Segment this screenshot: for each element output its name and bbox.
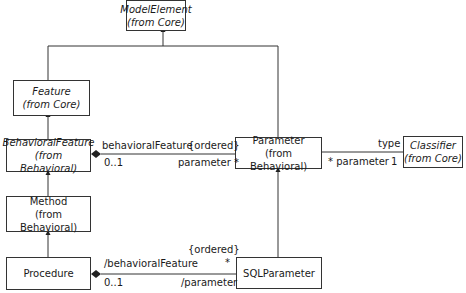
class-method[interactable]: Method (from Behavioral) bbox=[6, 196, 91, 232]
class-sql-parameter[interactable]: SQLParameter bbox=[236, 257, 322, 289]
class-classifier[interactable]: Classifier (from Core) bbox=[403, 136, 463, 168]
constraint-ordered: {ordered} bbox=[188, 244, 240, 255]
class-name: Parameter bbox=[252, 134, 304, 147]
class-package: (from Core) bbox=[23, 98, 81, 111]
class-name: Classifier bbox=[410, 139, 456, 152]
multiplicity-1: 1 bbox=[391, 156, 397, 167]
role-derived-parameter: /parameter bbox=[181, 277, 237, 288]
multiplicity-star: * bbox=[225, 257, 230, 268]
class-name: SQLParameter bbox=[243, 267, 315, 280]
class-behavioral-feature[interactable]: BehavioralFeature (from Behavioral) bbox=[6, 139, 91, 172]
class-model-element[interactable]: ModelElement (from Core) bbox=[126, 0, 186, 31]
role-parameter: parameter * bbox=[178, 157, 239, 168]
class-name: Feature bbox=[32, 85, 71, 98]
class-name: Procedure bbox=[23, 267, 73, 280]
role-behavioral-feature: behavioralFeature bbox=[102, 140, 193, 151]
class-name: ModelElement bbox=[120, 3, 191, 16]
class-name: BehavioralFeature bbox=[3, 136, 95, 149]
class-name: Method bbox=[30, 195, 68, 208]
constraint-ordered: {ordered} bbox=[188, 140, 240, 151]
class-feature[interactable]: Feature (from Core) bbox=[13, 80, 90, 116]
multiplicity-0-1: 0..1 bbox=[104, 157, 123, 168]
class-package: (from Behavioral) bbox=[236, 147, 321, 173]
composition-diamond-icon bbox=[91, 150, 101, 158]
role-derived-behavioral-feature: /behavioralFeature bbox=[104, 258, 198, 269]
class-package: (from Behavioral) bbox=[7, 149, 90, 175]
class-package: (from Core) bbox=[127, 16, 185, 29]
composition-diamond-icon bbox=[91, 270, 101, 278]
class-parameter[interactable]: Parameter (from Behavioral) bbox=[235, 137, 322, 169]
multiplicity-0-1: 0..1 bbox=[104, 277, 123, 288]
role-type: type bbox=[378, 138, 400, 149]
role-parameter: * parameter bbox=[328, 156, 389, 167]
class-package: (from Behavioral) bbox=[7, 208, 90, 234]
class-procedure[interactable]: Procedure bbox=[6, 257, 91, 290]
class-package: (from Core) bbox=[404, 152, 462, 165]
